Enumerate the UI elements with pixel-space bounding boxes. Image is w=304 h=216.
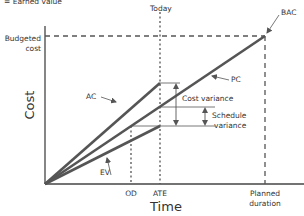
legend-fragment: = Earned value [4, 0, 62, 6]
x-axis-title: Time [149, 199, 182, 214]
budgeted-cost-label-2: cost [25, 44, 41, 53]
od-tick-label: OD [125, 189, 137, 198]
ate-tick-label: ATE [153, 189, 167, 198]
bac-pointer [267, 15, 279, 33]
pc-line [45, 36, 265, 184]
schedule-variance-label-1: Schedule [212, 111, 247, 120]
y-axis-title: Cost [22, 91, 37, 120]
today-label: Today [149, 4, 172, 13]
cost-variance-label: Cost variance [182, 94, 234, 103]
ac-label: AC [86, 92, 96, 101]
ac-pointer [101, 97, 116, 102]
pc-label: PC [231, 75, 241, 84]
schedule-variance-label-2: variance [214, 121, 247, 130]
pc-pointer [212, 76, 229, 80]
ev-label: EV [100, 168, 111, 177]
planned-duration-label-2: duration [249, 199, 281, 208]
planned-duration-label-1: Planned [250, 189, 280, 198]
bac-label: BAC [281, 8, 296, 17]
budgeted-cost-label-1: Budgeted [5, 34, 42, 43]
earned-value-diagram: = Earned value Today BAC Budgeted cost P… [0, 0, 304, 216]
